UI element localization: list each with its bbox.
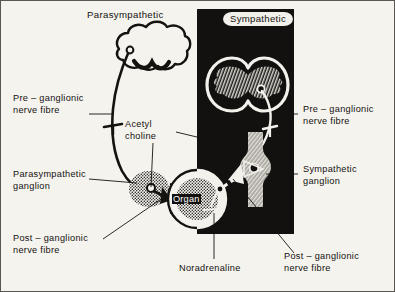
sympathetic-title: Sympathetic: [223, 12, 293, 26]
noradrenaline-vesicle: [217, 186, 223, 192]
label-left-post-ganglionic-nerve-fibre: Post – ganglionic nerve fibre: [13, 233, 88, 256]
parasympathetic-title: Parasympathetic: [87, 9, 164, 21]
label-right-post-ganglionic-nerve-fibre: Post – ganglionic nerve fibre: [284, 251, 359, 274]
label-parasympathetic-ganglion: Parasympathetic ganglion: [13, 169, 86, 192]
noradrenaline-terminal-bar: [204, 209, 217, 210]
label-left-pre-ganglionic-nerve-fibre: Pre – ganglionic nerve fibre: [13, 93, 84, 116]
parasympathetic-origin-nucleus: [127, 47, 134, 54]
organ-label: Organ: [172, 194, 201, 204]
label-noradrenaline: Noradrenaline: [179, 263, 241, 275]
label-right-pre-ganglionic-nerve-fibre: Pre – ganglionic nerve fibre: [303, 104, 374, 127]
label-sympathetic-ganglion: Sympathetic ganglion: [303, 164, 357, 187]
figure-autonomic-nervous-system: Parasympathetic Sympathetic Pre – gangli…: [0, 0, 395, 292]
label-acetyl-choline: Acetyl choline: [125, 119, 156, 142]
